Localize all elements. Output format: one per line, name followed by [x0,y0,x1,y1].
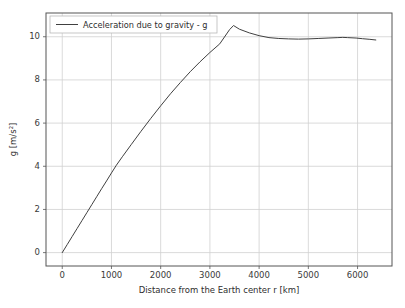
y-tick-label: 8 [35,74,40,84]
y-tick-label: 6 [35,118,40,128]
x-tick-label: 1000 [101,270,123,280]
gravity-vs-radius-line-chart: 0100020003000400050006000 0246810 Distan… [0,0,405,308]
y-tick-label: 10 [29,31,40,41]
x-tick-label: 0 [60,270,65,280]
y-tick-label: 2 [35,204,40,214]
axes-background [46,13,392,266]
x-axis-label: Distance from the Earth center r [km] [139,285,300,295]
x-tick-label: 2000 [150,270,172,280]
x-tick-label: 4000 [248,270,270,280]
y-tick-label: 0 [35,247,40,257]
x-tick-label: 5000 [298,270,320,280]
figure-canvas: 0100020003000400050006000 0246810 Distan… [0,0,405,308]
y-tick-label: 4 [35,161,40,171]
legend-entry-label: Acceleration due to gravity - g [83,20,207,30]
x-tick-label: 3000 [199,270,221,280]
y-axis-label: g [m/s²] [8,123,18,157]
chart-legend[interactable]: Acceleration due to gravity - g [50,16,217,33]
x-tick-label: 6000 [347,270,369,280]
